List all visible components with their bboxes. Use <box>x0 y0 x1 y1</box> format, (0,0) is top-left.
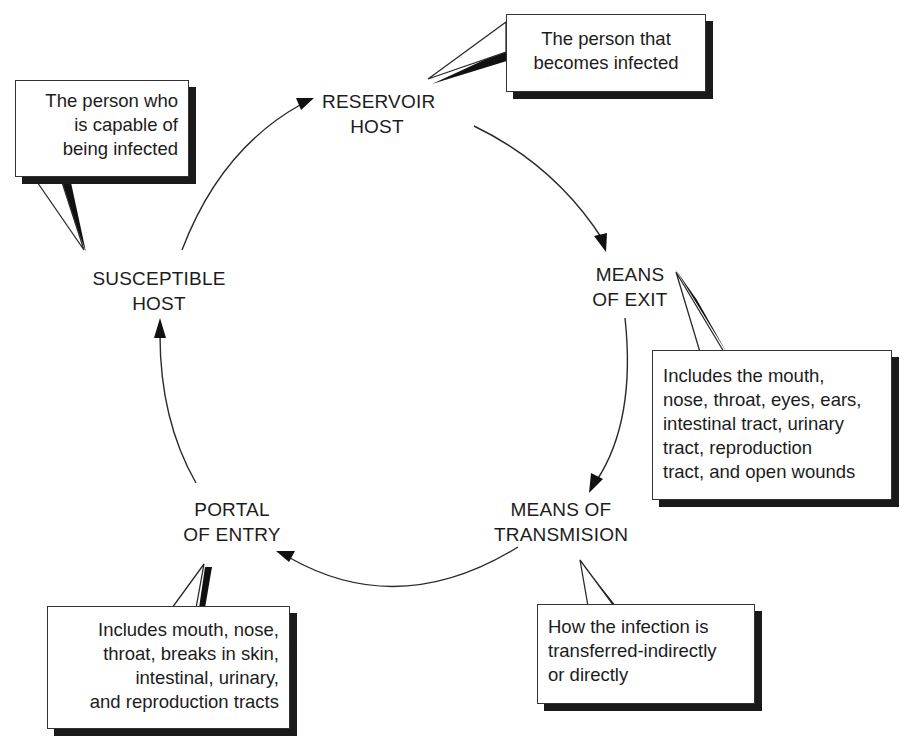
callout-text-line: The person who <box>26 89 178 113</box>
node-label-line2: OF EXIT <box>582 287 678 312</box>
callout-text-line: transferred-indirectly <box>548 639 744 663</box>
arrow-transmission-to-entry <box>290 547 518 586</box>
callout-text-line: How the infection is <box>548 615 744 639</box>
callout-reservoir: The person that becomes infected <box>506 14 706 92</box>
node-label-line2: HOST <box>84 291 234 316</box>
node-label-line1: SUSCEPTIBLE <box>84 266 234 291</box>
callout-text-line: becomes infected <box>517 51 695 75</box>
arrowhead-icon <box>296 98 314 110</box>
node-means-of-exit: MEANS OF EXIT <box>582 262 678 312</box>
callout-susceptible: The person who is capable of being infec… <box>15 80 189 177</box>
callout-text-line: tract, reproduction <box>663 436 881 460</box>
arrowhead-icon <box>594 233 607 252</box>
arrow-reservoir-to-exit <box>474 126 603 240</box>
callout-tail-transmission <box>580 560 614 606</box>
node-susceptible-host: SUSCEPTIBLE HOST <box>84 266 234 316</box>
callout-text-line: is capable of <box>26 113 178 137</box>
callout-tail-entry <box>172 564 204 608</box>
node-portal-of-entry: PORTAL OF ENTRY <box>172 497 292 547</box>
callout-text-line: The person that <box>517 27 695 51</box>
callout-exit: Includes the mouth, nose, throat, eyes, … <box>652 350 892 500</box>
arrow-entry-to-susceptible <box>160 335 196 483</box>
arrow-exit-to-transmission <box>597 318 627 480</box>
callout-text-line: intestinal tract, urinary <box>663 412 881 436</box>
arrowhead-icon <box>589 473 603 493</box>
callout-text-line: or directly <box>548 663 744 687</box>
callout-transmission: How the infection is transferred-indirec… <box>537 604 755 704</box>
node-label-line2: HOST <box>322 114 432 139</box>
callout-text-line: intestinal, urinary, <box>58 666 279 690</box>
callout-text-line: throat, breaks in skin, <box>58 642 279 666</box>
arrow-susceptible-to-reservoir <box>182 105 300 250</box>
callout-text-line: Includes the mouth, <box>663 364 881 388</box>
node-means-of-transmission: MEANS OF TRANSMISION <box>486 497 636 547</box>
callout-text-line: tract, and open wounds <box>663 460 881 484</box>
chain-of-infection-diagram: RESERVOIR HOST MEANS OF EXIT MEANS OF TR… <box>0 0 906 755</box>
callout-text-line: Includes mouth, nose, <box>58 618 279 642</box>
node-label-line2: TRANSMISION <box>486 522 636 547</box>
node-label-line2: OF ENTRY <box>172 522 292 547</box>
node-label-line1: PORTAL <box>172 497 292 522</box>
callout-text-line: being infected <box>26 137 178 161</box>
node-label-line1: MEANS <box>582 262 678 287</box>
callout-text-line: nose, throat, eyes, ears, <box>663 388 881 412</box>
callout-text-line: and reproduction tracts <box>58 690 279 714</box>
arrowhead-icon <box>276 551 295 562</box>
node-label-line1: MEANS OF <box>486 497 636 522</box>
node-reservoir-host: RESERVOIR HOST <box>322 89 432 139</box>
node-label-line1: RESERVOIR <box>322 89 432 114</box>
callout-entry: Includes mouth, nose, throat, breaks in … <box>47 606 290 729</box>
callout-tail-exit <box>676 272 724 352</box>
arrowhead-icon <box>154 318 166 338</box>
